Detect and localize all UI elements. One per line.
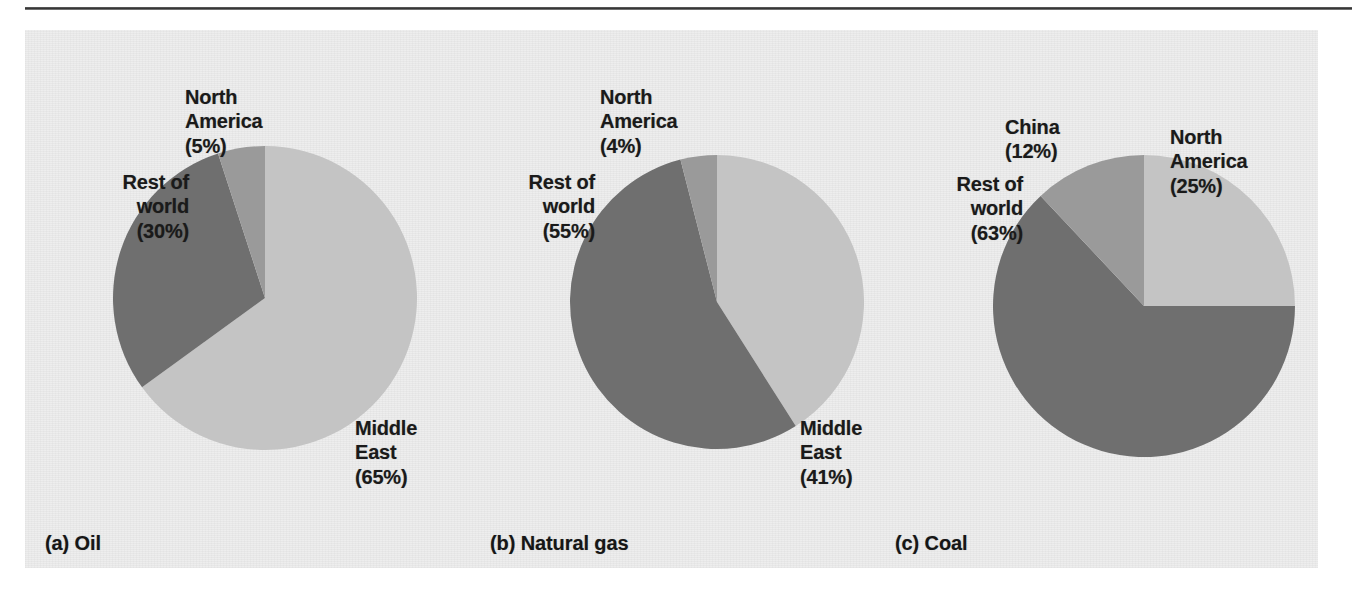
caption-natural-gas: (b) Natural gas <box>490 532 629 555</box>
pie-chart-natural-gas: Rest of world (55%) North America (4%) M… <box>445 30 885 568</box>
label-north-america-oil: North America (5%) <box>185 85 370 158</box>
label-china-coal: China (12%) <box>1005 115 1140 164</box>
pie-chart-coal: Rest of world (63%) China (12%) North Am… <box>865 30 1318 568</box>
label-rest-of-world-coal: Rest of world (63%) <box>873 172 1023 245</box>
pie-graphic-natural-gas <box>570 155 864 449</box>
pie-slices-coal <box>993 155 1295 457</box>
label-rest-of-world-oil: Rest of world (30%) <box>39 170 189 243</box>
pie-chart-oil: Rest of world (30%) North America (5%) M… <box>25 30 465 568</box>
label-north-america-coal: North America (25%) <box>1170 125 1315 198</box>
label-north-america-natural-gas: North America (4%) <box>600 85 780 158</box>
top-horizontal-rule <box>25 7 1352 10</box>
caption-oil: (a) Oil <box>45 532 101 555</box>
caption-coal: (c) Coal <box>895 532 968 555</box>
label-rest-of-world-natural-gas: Rest of world (55%) <box>445 170 595 243</box>
figure-panel: Rest of world (30%) North America (5%) M… <box>25 30 1318 568</box>
pie-graphic-coal <box>993 155 1295 457</box>
pie-slices-natural-gas <box>570 155 864 449</box>
